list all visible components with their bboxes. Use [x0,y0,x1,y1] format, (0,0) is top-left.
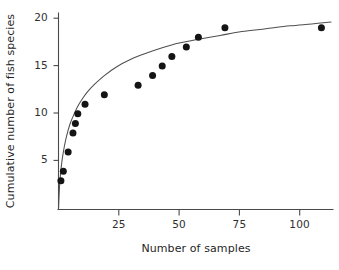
data-point [159,63,166,70]
data-point [101,91,108,98]
y-tick-group [54,18,59,160]
data-point [149,72,156,79]
data-point [195,34,202,41]
x-tick-label-50: 50 [172,218,186,230]
data-point [221,24,228,31]
data-point-group [57,24,325,184]
x-tick-labels: 25 50 75 100 [112,218,310,230]
x-tick-label-25: 25 [112,218,126,230]
data-point [74,110,81,117]
chart-canvas: 20 15 10 5 25 50 75 100 Number of sample… [0,0,339,270]
x-tick-group [119,210,300,216]
data-point [168,53,175,60]
y-tick-label-5: 5 [41,153,48,165]
y-tick-label-20: 20 [34,11,48,23]
y-tick-label-15: 15 [34,59,48,71]
data-point [65,149,72,156]
y-axis-title: Cumulative number of fish species [4,14,17,208]
y-tick-labels: 20 15 10 5 [34,11,48,165]
data-point [69,129,76,136]
data-point [57,177,64,184]
fitted-curve [59,22,332,209]
data-point [318,24,325,31]
species-accumulation-figure: 20 15 10 5 25 50 75 100 Number of sample… [0,0,339,270]
x-tick-label-100: 100 [289,218,310,230]
x-axis-title: Number of samples [141,242,250,255]
data-point [135,82,142,89]
data-point [60,168,67,175]
x-tick-label-75: 75 [233,218,247,230]
y-tick-label-10: 10 [34,106,48,118]
data-point [183,43,190,50]
axis-group [58,13,333,210]
data-point [72,120,79,127]
data-point [82,101,89,108]
